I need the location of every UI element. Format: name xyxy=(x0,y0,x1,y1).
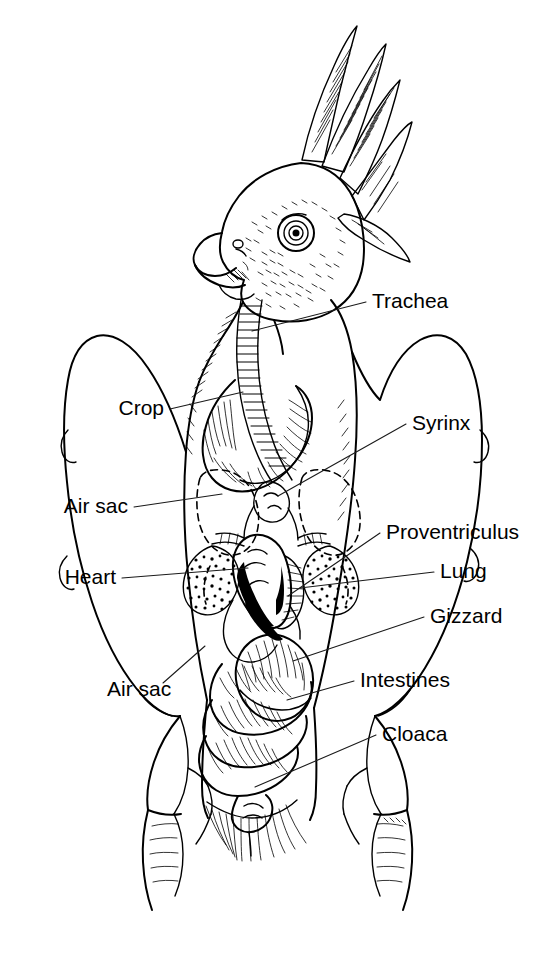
label-syrinx: Syrinx xyxy=(412,411,471,434)
label-proventriculus: Proventriculus xyxy=(386,520,519,543)
label-trachea: Trachea xyxy=(372,289,449,312)
label-heart: Heart xyxy=(65,565,117,588)
label-cloaca: Cloaca xyxy=(382,722,448,745)
label-gizzard: Gizzard xyxy=(430,604,502,627)
label-air-sac-upper: Air sac xyxy=(64,494,128,517)
label-air-sac-lower: Air sac xyxy=(107,677,171,700)
anatomy-illustration: Trachea Crop Syrinx Air sac Proventricul… xyxy=(0,0,551,966)
label-crop: Crop xyxy=(118,396,164,419)
anatomy-diagram: Trachea Crop Syrinx Air sac Proventricul… xyxy=(0,0,551,966)
label-intestines: Intestines xyxy=(360,668,450,691)
label-lung: Lung xyxy=(440,559,487,582)
